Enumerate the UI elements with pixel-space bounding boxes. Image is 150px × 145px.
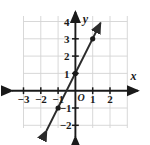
y-tick-label: −2 xyxy=(60,119,72,131)
x-tick-label: 1 xyxy=(90,93,96,105)
y-tick-label: 2 xyxy=(64,50,70,62)
y-axis-label: y xyxy=(81,12,89,26)
x-axis-label: x xyxy=(130,69,137,83)
x-tick-label: 2 xyxy=(107,93,113,105)
coordinate-graph-figure: 4 3 2 1 −1 −2 −3 −2 −1 1 2 O x y xyxy=(0,0,150,145)
y-tick-label: 1 xyxy=(64,68,70,80)
y-tick-label: 4 xyxy=(64,16,70,28)
data-point xyxy=(73,71,78,76)
data-point xyxy=(90,36,95,41)
x-tick-label: −2 xyxy=(35,93,47,105)
coordinate-plane-svg: 4 3 2 1 −1 −2 −3 −2 −1 1 2 O x y xyxy=(0,0,150,145)
x-tick-label: −3 xyxy=(18,93,30,105)
y-tick-label: 3 xyxy=(64,33,70,45)
origin-label: O xyxy=(78,92,85,103)
x-tick-label: −1 xyxy=(52,93,64,105)
